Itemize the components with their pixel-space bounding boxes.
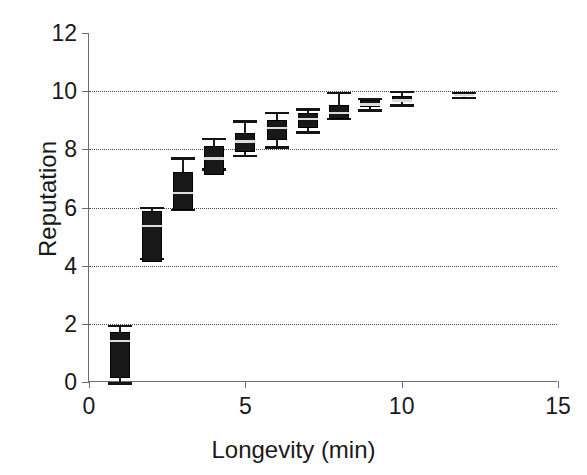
whisker-cap-low — [108, 382, 132, 385]
median-line — [392, 99, 412, 102]
median-line — [142, 225, 162, 228]
boxplot-figure: Reputation 024681012 051015 Longevity (m… — [0, 0, 587, 475]
whisker-cap-low — [358, 109, 382, 112]
y-tick-label-6: 6 — [64, 194, 77, 221]
y-tick-label-4: 4 — [64, 252, 77, 279]
x-tick-label-0: 0 — [83, 393, 96, 420]
whisker-cap-low — [390, 104, 414, 107]
x-tick-label-5: 5 — [239, 393, 252, 420]
median-line — [329, 112, 349, 115]
gridline-y-10 — [89, 91, 557, 92]
whisker-cap-high — [390, 91, 414, 94]
whisker-cap-high — [140, 207, 164, 210]
median-line — [204, 157, 224, 160]
y-tick-label-12: 12 — [51, 20, 77, 47]
whisker-cap-low — [296, 131, 320, 134]
whisker-cap-low — [452, 97, 476, 100]
y-tick-10 — [82, 91, 89, 92]
gridline-y-2 — [89, 324, 557, 325]
whisker-cap-high — [327, 92, 351, 95]
whisker-cap-high — [233, 120, 257, 123]
plot-area: 024681012 051015 — [88, 33, 557, 382]
whisker-cap-high — [108, 325, 132, 328]
x-tick-15 — [558, 381, 559, 388]
whisker-cap-low — [233, 155, 257, 158]
x-tick-10 — [402, 381, 403, 388]
box-iqr — [204, 146, 224, 175]
whisker-cap-high — [296, 108, 320, 111]
whisker-cap-high — [202, 138, 226, 141]
y-tick-2 — [82, 324, 89, 325]
y-tick-0 — [82, 382, 89, 383]
y-tick-label-2: 2 — [64, 310, 77, 337]
median-line — [235, 140, 255, 143]
box-iqr — [267, 120, 287, 140]
median-line — [360, 103, 380, 106]
x-tick-0 — [89, 381, 90, 388]
y-axis-title: Reputation — [34, 89, 62, 309]
gridline-y-4 — [89, 266, 557, 267]
median-line — [173, 192, 193, 195]
y-tick-12 — [82, 33, 89, 34]
y-tick-8 — [82, 149, 89, 150]
y-tick-6 — [82, 208, 89, 209]
whisker-cap-low — [265, 146, 289, 149]
whisker-cap-high — [265, 112, 289, 115]
box-iqr — [298, 113, 318, 128]
gridline-y-8 — [89, 149, 557, 150]
whisker-cap-high — [171, 157, 195, 160]
y-tick-label-10: 10 — [51, 78, 77, 105]
x-tick-label-10: 10 — [389, 393, 415, 420]
box-iqr — [142, 211, 162, 262]
x-axis-title: Longevity (min) — [0, 436, 587, 464]
y-tick-label-0: 0 — [64, 369, 77, 396]
x-tick-label-15: 15 — [545, 393, 571, 420]
box-iqr — [235, 133, 255, 152]
y-tick-label-8: 8 — [64, 136, 77, 163]
x-tick-5 — [245, 381, 246, 388]
median-line — [267, 127, 287, 130]
median-line — [110, 340, 130, 343]
y-tick-4 — [82, 266, 89, 267]
box-iqr — [110, 332, 130, 378]
median-line — [298, 118, 318, 121]
median-line — [454, 94, 474, 97]
